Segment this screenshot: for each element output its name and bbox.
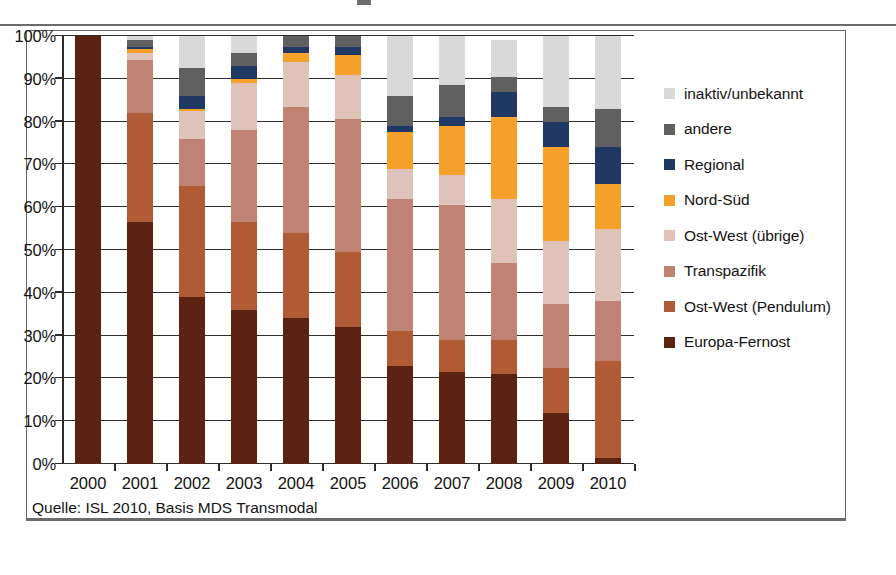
- bar-segment[interactable]: [491, 199, 517, 263]
- bar-2007[interactable]: [439, 36, 465, 464]
- bar-segment[interactable]: [491, 40, 517, 76]
- bar-2006[interactable]: [387, 36, 413, 464]
- bar-segment[interactable]: [127, 222, 153, 464]
- bar-segment[interactable]: [335, 119, 361, 252]
- bar-2003[interactable]: [231, 36, 257, 464]
- bar-segment[interactable]: [231, 36, 257, 53]
- bar-segment[interactable]: [179, 96, 205, 109]
- bar-segment[interactable]: [439, 117, 465, 126]
- legend-item[interactable]: inaktiv/unbekannt: [664, 76, 890, 112]
- bar-segment[interactable]: [127, 60, 153, 114]
- bar-2010[interactable]: [595, 36, 621, 464]
- bar-segment[interactable]: [283, 318, 309, 464]
- bar-segment[interactable]: [127, 113, 153, 222]
- bar-segment[interactable]: [491, 117, 517, 198]
- bar-segment[interactable]: [387, 331, 413, 365]
- bar-2004[interactable]: [283, 36, 309, 464]
- bar-segment[interactable]: [179, 186, 205, 297]
- bar-segment[interactable]: [283, 62, 309, 107]
- bar-segment[interactable]: [543, 368, 569, 413]
- bar-segment[interactable]: [491, 374, 517, 464]
- bar-2001[interactable]: [127, 36, 153, 464]
- bar-segment[interactable]: [335, 75, 361, 120]
- bar-segment[interactable]: [127, 40, 153, 46]
- bar-segment[interactable]: [543, 147, 569, 241]
- bar-segment[interactable]: [231, 130, 257, 222]
- bar-segment[interactable]: [387, 132, 413, 168]
- bar-2005[interactable]: [335, 36, 361, 464]
- y-axis-tick: [55, 35, 62, 37]
- bar-segment[interactable]: [179, 109, 205, 111]
- bar-segment[interactable]: [179, 36, 205, 68]
- bar-segment[interactable]: [335, 55, 361, 74]
- bar-segment[interactable]: [595, 301, 621, 361]
- bar-segment[interactable]: [491, 263, 517, 340]
- bar-segment[interactable]: [543, 304, 569, 368]
- bar-segment[interactable]: [439, 340, 465, 372]
- bar-segment[interactable]: [283, 47, 309, 53]
- bar-segment[interactable]: [231, 83, 257, 130]
- bar-segment[interactable]: [543, 107, 569, 122]
- bar-segment[interactable]: [179, 111, 205, 139]
- bar-segment[interactable]: [439, 85, 465, 117]
- bar-segment[interactable]: [231, 79, 257, 83]
- bar-segment[interactable]: [231, 222, 257, 310]
- bar-2000[interactable]: [75, 36, 101, 464]
- bar-segment[interactable]: [231, 53, 257, 66]
- bar-segment[interactable]: [335, 36, 361, 47]
- bar-segment[interactable]: [439, 175, 465, 205]
- bar-2002[interactable]: [179, 36, 205, 464]
- bar-segment[interactable]: [335, 252, 361, 327]
- bar-segment[interactable]: [127, 49, 153, 53]
- bar-2008[interactable]: [491, 36, 517, 464]
- bar-segment[interactable]: [283, 36, 309, 47]
- bar-segment[interactable]: [439, 205, 465, 340]
- bar-segment[interactable]: [439, 36, 465, 85]
- legend-item[interactable]: Ost-West (übrige): [664, 218, 890, 254]
- bar-segment[interactable]: [335, 327, 361, 464]
- bar-segment[interactable]: [179, 139, 205, 186]
- bar-segment[interactable]: [335, 47, 361, 56]
- bar-segment[interactable]: [387, 169, 413, 199]
- bar-segment[interactable]: [595, 184, 621, 229]
- bar-segment[interactable]: [491, 77, 517, 92]
- legend-item[interactable]: Ost-West (Pendulum): [664, 289, 890, 325]
- bar-segment[interactable]: [543, 36, 569, 107]
- bar-segment[interactable]: [595, 361, 621, 457]
- bar-segment[interactable]: [231, 66, 257, 79]
- bar-segment[interactable]: [543, 122, 569, 148]
- bar-segment[interactable]: [439, 372, 465, 464]
- bar-segment[interactable]: [75, 36, 101, 464]
- bar-segment[interactable]: [231, 310, 257, 464]
- legend-item[interactable]: Nord-Süd: [664, 183, 890, 219]
- legend-item[interactable]: Regional: [664, 147, 890, 183]
- bar-segment[interactable]: [387, 36, 413, 96]
- bar-segment[interactable]: [595, 229, 621, 302]
- bar-segment[interactable]: [543, 241, 569, 303]
- bar-segment[interactable]: [543, 413, 569, 464]
- legend-item[interactable]: Transpazifik: [664, 254, 890, 290]
- bar-segment[interactable]: [283, 233, 309, 319]
- bar-segment[interactable]: [491, 340, 517, 374]
- bar-segment[interactable]: [283, 53, 309, 62]
- bar-segment[interactable]: [179, 68, 205, 96]
- bar-segment[interactable]: [595, 147, 621, 183]
- bar-segment[interactable]: [127, 53, 153, 59]
- bar-segment[interactable]: [127, 36, 153, 40]
- bar-segment[interactable]: [127, 47, 153, 49]
- bar-segment[interactable]: [283, 107, 309, 233]
- x-axis-tick: [166, 464, 168, 471]
- bar-segment[interactable]: [595, 458, 621, 464]
- bar-segment[interactable]: [387, 199, 413, 332]
- bar-segment[interactable]: [439, 126, 465, 175]
- legend-item[interactable]: andere: [664, 112, 890, 148]
- bar-segment[interactable]: [387, 366, 413, 464]
- bar-segment[interactable]: [595, 109, 621, 148]
- bar-segment[interactable]: [387, 126, 413, 132]
- bar-2009[interactable]: [543, 36, 569, 464]
- bar-segment[interactable]: [595, 36, 621, 109]
- legend-item[interactable]: Europa-Fernost: [664, 325, 890, 361]
- bar-segment[interactable]: [491, 92, 517, 118]
- bar-segment[interactable]: [179, 297, 205, 464]
- bar-segment[interactable]: [387, 96, 413, 126]
